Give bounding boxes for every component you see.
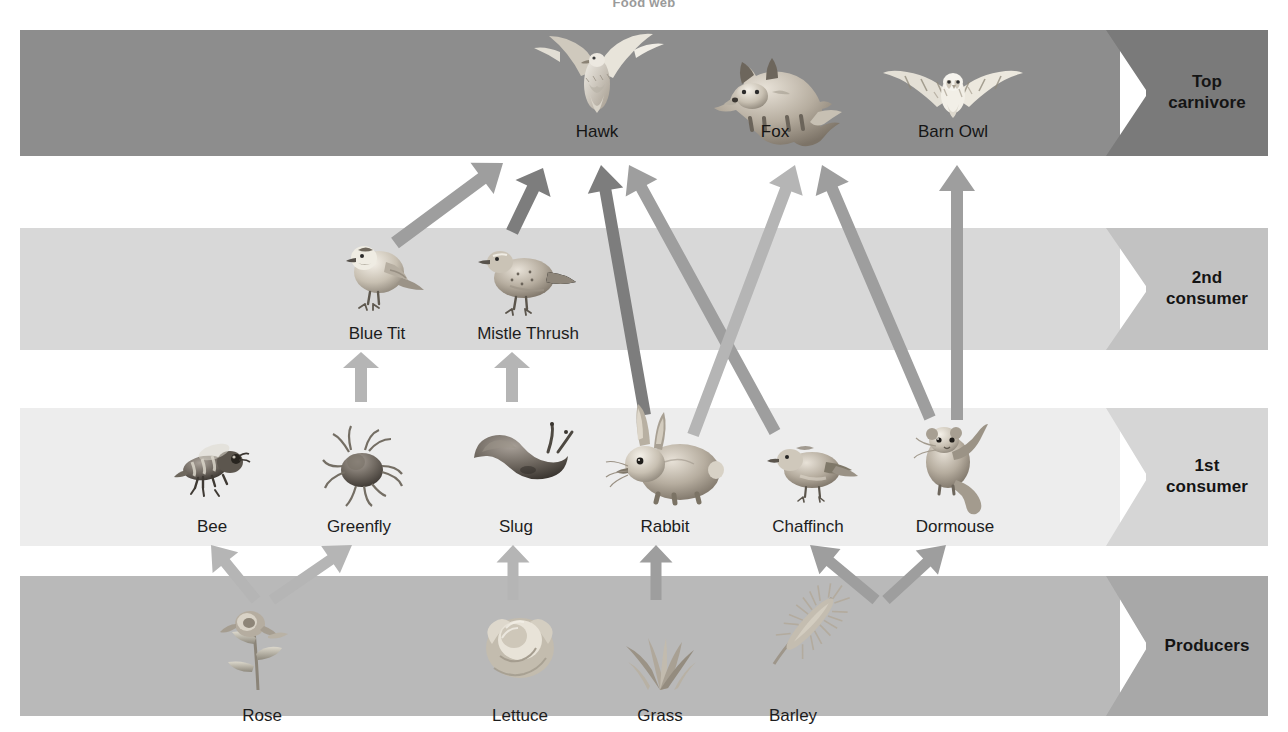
- organism-label-barn-owl: Barn Owl: [878, 123, 1028, 140]
- organism-barley: Barley: [718, 707, 868, 724]
- organism-chaffinch: Chaffinch: [733, 518, 883, 535]
- organism-blue-tit: Blue Tit: [302, 325, 452, 342]
- organism-grass: Grass: [585, 707, 735, 724]
- organism-rose: Rose: [187, 707, 337, 724]
- organism-labels-layer: HawkFoxBarn OwlBlue TitMistle ThrushBeeG…: [0, 0, 1288, 732]
- organism-label-grass: Grass: [585, 707, 735, 724]
- organism-label-rabbit: Rabbit: [590, 518, 740, 535]
- organism-label-chaffinch: Chaffinch: [733, 518, 883, 535]
- organism-label-lettuce: Lettuce: [445, 707, 595, 724]
- organism-lettuce: Lettuce: [445, 707, 595, 724]
- organism-barn-owl: Barn Owl: [878, 123, 1028, 140]
- organism-label-blue-tit: Blue Tit: [302, 325, 452, 342]
- organism-mistle-thrush: Mistle Thrush: [453, 325, 603, 342]
- organism-label-bee: Bee: [137, 518, 287, 535]
- organism-bee: Bee: [137, 518, 287, 535]
- organism-label-barley: Barley: [718, 707, 868, 724]
- organism-label-dormouse: Dormouse: [880, 518, 1030, 535]
- organism-label-rose: Rose: [187, 707, 337, 724]
- organism-label-mistle-thrush: Mistle Thrush: [453, 325, 603, 342]
- organism-fox: Fox: [700, 123, 850, 140]
- organism-slug: Slug: [441, 518, 591, 535]
- organism-label-slug: Slug: [441, 518, 591, 535]
- organism-label-greenfly: Greenfly: [284, 518, 434, 535]
- organism-greenfly: Greenfly: [284, 518, 434, 535]
- organism-rabbit: Rabbit: [590, 518, 740, 535]
- organism-label-hawk: Hawk: [522, 123, 672, 140]
- organism-hawk: Hawk: [522, 123, 672, 140]
- organism-dormouse: Dormouse: [880, 518, 1030, 535]
- organism-label-fox: Fox: [700, 123, 850, 140]
- food-web-diagram: Food web Topcarnivore2ndconsumer1stconsu…: [0, 0, 1288, 732]
